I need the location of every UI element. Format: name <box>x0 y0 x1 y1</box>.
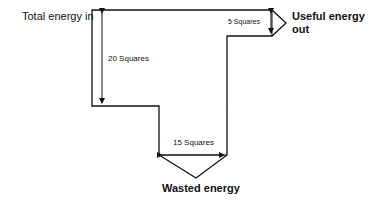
sankey-diagram <box>0 0 373 204</box>
wasted-width-label: 15 Squares <box>173 138 214 147</box>
useful-label-line1: Useful energy <box>292 10 365 22</box>
input-width-label: 20 Squares <box>108 54 149 63</box>
wasted-label: Wasted energy <box>162 182 240 194</box>
flow-outline <box>92 10 286 178</box>
useful-width-label: 5 Squares <box>228 18 260 25</box>
input-label: Total energy in <box>22 10 94 22</box>
useful-label-line2: out <box>292 23 309 35</box>
